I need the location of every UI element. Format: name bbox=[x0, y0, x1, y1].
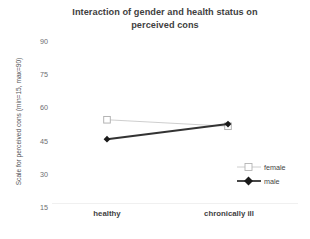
chart-title: Interaction of gender and health status … bbox=[34, 6, 296, 31]
y-tick-label: 75 bbox=[14, 71, 48, 79]
y-tick-label: 60 bbox=[14, 104, 48, 112]
y-tick-label: 30 bbox=[14, 171, 48, 179]
legend-item-male: male bbox=[236, 174, 308, 188]
chart-title-line-2: perceived cons bbox=[34, 19, 296, 32]
legend-label-female: female bbox=[264, 163, 286, 172]
x-tick-label-chronically-ill: chronically ill bbox=[188, 209, 270, 218]
y-axis-tick-labels: 90 75 60 45 30 15 bbox=[8, 0, 48, 239]
legend-swatch-male bbox=[236, 174, 262, 188]
series-line-male bbox=[107, 124, 228, 139]
legend-swatch-female bbox=[236, 160, 262, 174]
legend-label-male: male bbox=[264, 177, 280, 186]
data-point-female-healthy bbox=[104, 116, 111, 123]
chart-legend: female male bbox=[236, 160, 308, 188]
series-line-female bbox=[107, 120, 228, 126]
series-female bbox=[104, 116, 232, 129]
chart-figure: Interaction of gender and health status … bbox=[0, 0, 310, 239]
data-point-male-healthy bbox=[104, 136, 111, 143]
y-tick-label: 45 bbox=[14, 138, 48, 146]
chart-title-line-1: Interaction of gender and health status … bbox=[34, 6, 296, 19]
x-tick-label-healthy: healthy bbox=[70, 209, 144, 218]
series-male bbox=[104, 121, 232, 143]
legend-item-female: female bbox=[236, 160, 308, 174]
y-tick-label: 15 bbox=[14, 204, 48, 212]
y-tick-label: 90 bbox=[14, 38, 48, 46]
